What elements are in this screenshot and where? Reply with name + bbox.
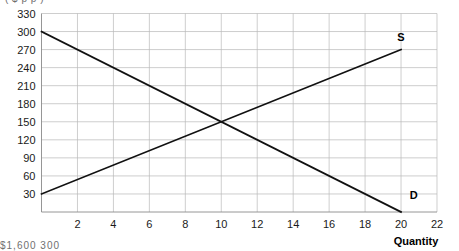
y-tick-label: 210	[17, 80, 35, 92]
x-tick-label: 2	[74, 218, 80, 230]
y-axis-tick-labels: 306090120150180210240270300330	[17, 8, 35, 200]
bottom-clipped-caption: $1,600 300	[0, 240, 60, 251]
x-axis-tick-labels: 246810121416182022	[74, 218, 443, 230]
y-tick-label: 150	[17, 116, 35, 128]
curve-label-D: D	[410, 189, 418, 201]
y-tick-label: 300	[17, 26, 35, 38]
x-tick-label: 16	[323, 218, 335, 230]
curve-labels: SD	[397, 31, 417, 201]
x-tick-label: 18	[359, 218, 371, 230]
y-tick-label: 240	[17, 62, 35, 74]
x-axis-title: Quantity	[394, 235, 439, 247]
y-tick-label: 330	[17, 8, 35, 20]
curve-label-S: S	[397, 31, 404, 43]
axis-lines	[42, 14, 438, 213]
x-tick-label: 14	[287, 218, 299, 230]
x-tick-label: 8	[182, 218, 188, 230]
y-tick-label: 270	[17, 44, 35, 56]
y-tick-label: 180	[17, 98, 35, 110]
y-tick-label: 30	[23, 188, 35, 200]
x-tick-label: 12	[251, 218, 263, 230]
supply-demand-chart: 306090120150180210240270300330 246810121…	[0, 0, 459, 251]
x-tick-label: 10	[215, 218, 227, 230]
x-tick-label: 20	[395, 218, 407, 230]
y-tick-label: 60	[23, 170, 35, 182]
y-tick-label: 120	[17, 134, 35, 146]
x-tick-label: 22	[431, 218, 443, 230]
x-tick-label: 4	[110, 218, 116, 230]
y-tick-label: 90	[23, 152, 35, 164]
gridlines	[42, 14, 438, 213]
x-tick-label: 6	[146, 218, 152, 230]
